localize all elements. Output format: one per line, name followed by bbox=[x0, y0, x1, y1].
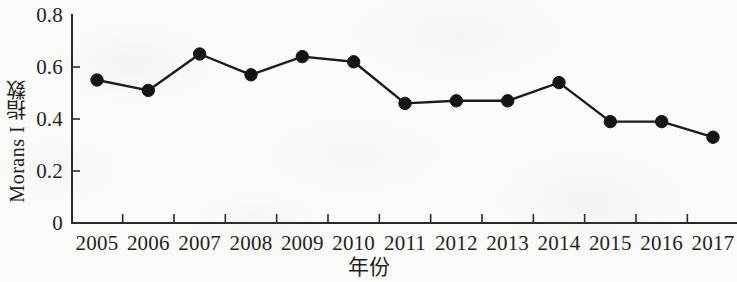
tick-marks-group bbox=[72, 67, 687, 223]
x-axis-tick-label: 2007 bbox=[178, 231, 221, 256]
data-point-marker bbox=[707, 131, 719, 143]
data-point-marker bbox=[553, 76, 565, 88]
y-axis-tick-label: 0.2 bbox=[36, 159, 63, 184]
x-axis-tick-label: 2017 bbox=[692, 231, 735, 256]
data-point-marker bbox=[450, 95, 462, 107]
y-axis-tick-label: 0.4 bbox=[36, 107, 63, 132]
data-series-line bbox=[97, 54, 713, 137]
x-axis-tick-label: 2011 bbox=[384, 231, 426, 256]
x-axis-tick-label: 2014 bbox=[538, 231, 581, 256]
data-series-markers bbox=[91, 48, 719, 144]
x-axis-tick-label: 2012 bbox=[435, 231, 478, 256]
x-axis-tick-label: 2010 bbox=[332, 231, 375, 256]
axis-group bbox=[72, 15, 737, 223]
data-point-marker bbox=[142, 84, 154, 96]
x-axis-tick-label: 2006 bbox=[127, 231, 170, 256]
x-axis-tick-label: 2015 bbox=[589, 231, 632, 256]
x-axis-tick-label: 2008 bbox=[230, 231, 273, 256]
y-axis-tick-label: 0.8 bbox=[36, 3, 63, 28]
axis-lines bbox=[72, 15, 737, 223]
y-axis-tick-label: 0.6 bbox=[36, 55, 63, 80]
data-point-marker bbox=[501, 95, 513, 107]
x-axis-tick-label: 2005 bbox=[76, 231, 119, 256]
chart-figure: Morans I 指数 年份 00.20.40.60.8 20052006200… bbox=[0, 0, 737, 282]
data-point-marker bbox=[399, 97, 411, 109]
x-axis-tick-label: 2013 bbox=[486, 231, 529, 256]
data-point-marker bbox=[91, 74, 103, 86]
series-line-path bbox=[97, 54, 713, 137]
data-point-marker bbox=[245, 69, 257, 81]
data-point-marker bbox=[347, 56, 359, 68]
x-axis-tick-label: 2016 bbox=[640, 231, 683, 256]
data-point-marker bbox=[655, 115, 667, 127]
data-point-marker bbox=[193, 48, 205, 60]
x-axis-tick-label: 2009 bbox=[281, 231, 324, 256]
y-axis-tick-label: 0 bbox=[52, 211, 63, 236]
data-point-marker bbox=[604, 115, 616, 127]
data-point-marker bbox=[296, 50, 308, 62]
y-axis-title: Morans I 指数 bbox=[2, 79, 31, 202]
